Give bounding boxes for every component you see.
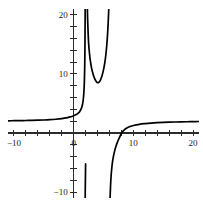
x-axis-tick-labels: −1001020 (7, 138, 198, 148)
function-curves (8, 6, 199, 198)
x-tick-label: 0 (71, 138, 76, 148)
curve-middle-branch (87, 6, 108, 83)
y-tick-label: −10 (54, 187, 69, 197)
x-tick-label: 20 (189, 138, 199, 148)
y-tick-label: 10 (59, 69, 69, 79)
function-plot: −1001020 −101020 (0, 0, 203, 207)
y-axis-tick-labels: −101020 (54, 10, 69, 197)
y-tick-label: 20 (59, 10, 69, 20)
x-tick-label: 10 (129, 138, 139, 148)
axes-group (8, 9, 199, 198)
screenshot-root: −1001020 −101020 (0, 0, 203, 207)
x-tick-label: −10 (7, 138, 22, 148)
plot-svg: −1001020 −101020 (0, 0, 203, 207)
